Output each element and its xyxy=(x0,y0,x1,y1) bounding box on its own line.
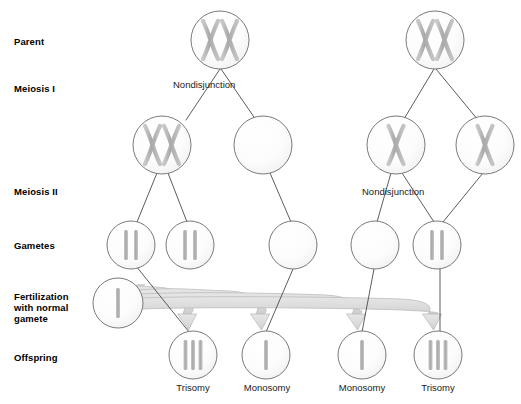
meiosis-i-cell-one-right xyxy=(456,116,514,174)
cell-membrane xyxy=(269,221,317,269)
offspring-trisomy-1 xyxy=(169,331,217,379)
gamete-nullisomic-2 xyxy=(351,221,399,269)
chromatid-bar xyxy=(429,340,433,370)
row-label-offspring: Offspring xyxy=(14,352,58,363)
offspring-monosomy-2 xyxy=(338,331,386,379)
cell-layer xyxy=(93,11,514,379)
cell-contents-one-chromatid xyxy=(360,340,364,370)
row-label-parent: Parent xyxy=(14,36,44,47)
chromatid-bar xyxy=(193,230,197,260)
meiosis-nondisjunction-diagram xyxy=(0,0,521,404)
outcome-label-outcome-3: Monosomy xyxy=(339,382,385,393)
gamete-nullisomic-1 xyxy=(269,221,317,269)
cell-membrane xyxy=(351,221,399,269)
connector-mi3-to-gamete-4 xyxy=(377,173,391,222)
cell-membrane xyxy=(406,11,464,69)
row-label-meiosis-ii: Meiosis II xyxy=(14,186,58,197)
row-label-fertilization: Fertilization with normal gamete xyxy=(14,291,69,324)
cell-membrane xyxy=(234,116,292,174)
cell-contents-one-chromatid xyxy=(264,340,268,370)
fertilization-arrow-4-ribbon xyxy=(124,297,438,314)
chromatid-bar xyxy=(436,340,440,370)
cell-contents-one-chromatid xyxy=(116,288,120,318)
cell-membrane xyxy=(166,221,214,269)
chromatid-bar xyxy=(199,340,203,370)
cell-contents-three-chromatids xyxy=(429,340,448,370)
cell-membrane xyxy=(107,221,155,269)
normal-gamete-cell xyxy=(93,278,143,328)
connector-parent-right-to-mi-1 xyxy=(404,69,434,119)
connector-parent-right-to-mi-2 xyxy=(436,69,478,120)
chromatid-bar xyxy=(430,230,434,260)
offspring-monosomy-1 xyxy=(242,331,290,379)
chromatid-bar xyxy=(444,340,448,370)
connector-mi1-to-gamete-1 xyxy=(137,173,157,222)
cell-membrane xyxy=(413,221,461,269)
cell-contents-three-chromatids xyxy=(184,340,203,370)
row-label-meiosis-i: Meiosis I xyxy=(14,83,55,94)
chromatid-bar xyxy=(124,230,128,260)
cell-membrane xyxy=(133,116,191,174)
parent-cell-left xyxy=(191,11,249,69)
chromatid-bar xyxy=(264,340,268,370)
meiosis-i-cell-one-left xyxy=(367,116,425,174)
offspring-trisomy-2 xyxy=(414,331,462,379)
gamete-disomic-1 xyxy=(107,221,155,269)
chromatid-bar xyxy=(116,288,120,318)
parent-cell-right xyxy=(406,11,464,69)
fertilization-arrow-layer xyxy=(124,285,442,330)
connector-mi2-to-gamete-3 xyxy=(270,173,291,222)
gamete-disomic-2 xyxy=(166,221,214,269)
connector-parent-left-to-mi-1 xyxy=(186,69,220,120)
gamete-disomic-3 xyxy=(413,221,461,269)
chromatid-bar xyxy=(440,230,444,260)
outcome-label-outcome-4: Trisomy xyxy=(421,382,454,393)
chromatid-bar xyxy=(184,340,188,370)
fertilization-arrow-2-head xyxy=(251,314,270,330)
fertilization-arrow-4-head xyxy=(423,314,442,330)
row-label-gametes: Gametes xyxy=(14,240,55,251)
meiosis-i-cell-empty xyxy=(234,116,292,174)
caption-nondisjunction-meiosis-ii: Nondisjunction xyxy=(362,186,424,197)
chromatid-bar xyxy=(360,340,364,370)
chromatid-bar xyxy=(134,230,138,260)
meiosis-i-cell-both xyxy=(133,116,191,174)
chromatid-bar xyxy=(191,340,195,370)
cell-membrane xyxy=(191,11,249,69)
chromatid-bar xyxy=(183,230,187,260)
outcome-label-outcome-2: Monosomy xyxy=(244,382,290,393)
connector-mi4-to-gamete-5 xyxy=(443,173,483,222)
connector-mi1-to-gamete-2 xyxy=(168,173,187,222)
connector-mi3-to-gamete-5 xyxy=(402,173,434,222)
figure-canvas: ParentMeiosis IMeiosis IIGametesFertiliz… xyxy=(0,0,521,404)
outcome-label-outcome-1: Trisomy xyxy=(176,382,209,393)
connector-parent-left-to-mi-2 xyxy=(221,69,256,120)
caption-nondisjunction-meiosis-i: Nondisjunction xyxy=(173,79,235,90)
